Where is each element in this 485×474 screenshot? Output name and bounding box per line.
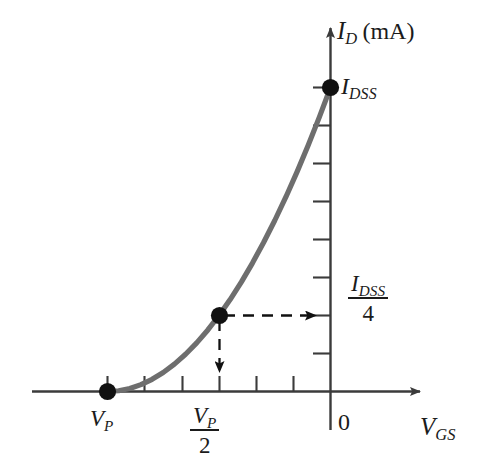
x-axis-subscript: GS — [435, 425, 456, 444]
x-axis-symbol: V — [420, 413, 435, 440]
vp-half-label: VP 2 — [190, 404, 219, 457]
vp-half-numerator-symbol: V — [193, 403, 207, 428]
origin-label: 0 — [338, 410, 350, 434]
idss-subscript: DSS — [349, 85, 377, 102]
idss-quarter-denominator: 4 — [348, 301, 388, 325]
idss-quarter-numerator-symbol: I — [351, 271, 359, 296]
jfet-transfer-curve-figure: ID(mA) IDSS IDSS 4 0 VGS VP VP 2 — [0, 0, 485, 474]
point-marker-vp-half[interactable] — [211, 307, 228, 324]
y-axis-title: ID(mA) — [337, 18, 414, 43]
vp-symbol: V — [90, 406, 104, 431]
x-axis-title: VGS — [420, 414, 456, 439]
point-marker-vp[interactable] — [99, 383, 116, 400]
y-axis-unit: (mA) — [362, 18, 414, 44]
dashed-guides — [220, 316, 317, 373]
vp-half-denominator: 2 — [190, 433, 219, 457]
idss-quarter-numerator: IDSS — [348, 272, 388, 296]
idss-symbol: I — [341, 73, 349, 99]
vp-subscript: P — [104, 417, 113, 434]
vp-half-numerator: VP — [190, 404, 219, 428]
vp-label: VP — [90, 407, 113, 430]
idss-quarter-numerator-subscript: DSS — [359, 282, 386, 299]
vp-half-numerator-subscript: P — [207, 414, 216, 431]
data-point-markers — [99, 79, 339, 400]
idss-label: IDSS — [341, 74, 377, 98]
idss-quarter-label: IDSS 4 — [348, 272, 388, 325]
y-axis-subscript: D — [345, 29, 357, 48]
point-marker-idss[interactable] — [322, 79, 339, 96]
plot-canvas — [0, 0, 485, 474]
